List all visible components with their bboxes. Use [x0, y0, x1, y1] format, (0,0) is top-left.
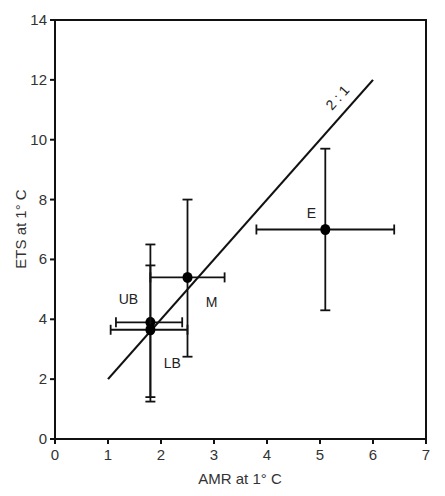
y-axis-ticks: 02468101214 — [30, 11, 55, 447]
data-points: EMUBLB — [111, 149, 395, 402]
data-point-lb: LB — [111, 265, 188, 401]
data-point-label: UB — [119, 291, 138, 307]
y-axis-title: ETS at 1° C — [12, 189, 29, 269]
data-marker — [320, 224, 330, 235]
x-tick-label: 6 — [369, 446, 377, 463]
x-tick-label: 0 — [51, 446, 59, 463]
y-tick-label: 14 — [30, 11, 47, 28]
x-axis-title: AMR at 1° C — [198, 470, 282, 487]
x-tick-label: 1 — [104, 446, 112, 463]
y-tick-label: 2 — [39, 370, 47, 387]
data-point-e: E — [256, 149, 394, 311]
x-tick-label: 5 — [316, 446, 324, 463]
data-marker — [183, 272, 193, 283]
scatter-chart: 01234567 02468101214 AMR at 1° C ETS at … — [0, 0, 445, 496]
data-marker — [145, 324, 155, 335]
x-tick-label: 4 — [263, 446, 271, 463]
y-tick-label: 8 — [39, 191, 47, 208]
y-tick-label: 12 — [30, 71, 47, 88]
data-point-ub: UB — [116, 244, 182, 397]
x-tick-label: 2 — [157, 446, 165, 463]
data-point-label: E — [307, 205, 316, 221]
y-tick-label: 0 — [39, 430, 47, 447]
y-tick-label: 4 — [39, 310, 47, 327]
data-point-label: M — [206, 294, 218, 310]
y-tick-label: 6 — [39, 250, 47, 267]
x-tick-label: 7 — [422, 446, 430, 463]
data-point-label: LB — [164, 355, 181, 371]
x-axis-ticks: 01234567 — [51, 439, 430, 463]
y-tick-label: 10 — [30, 131, 47, 148]
x-tick-label: 3 — [210, 446, 218, 463]
